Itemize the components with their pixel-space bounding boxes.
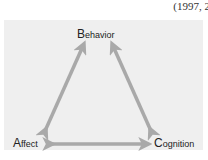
arrow-cognition-behavior bbox=[113, 46, 151, 131]
arrow-affect-behavior bbox=[45, 46, 83, 131]
node-affect-initial: A bbox=[13, 136, 21, 150]
node-affect: Affect bbox=[13, 136, 38, 150]
node-cognition-initial: C bbox=[154, 136, 163, 150]
node-cognition-rest: ognition bbox=[163, 139, 195, 149]
node-behavior-initial: B bbox=[77, 27, 85, 41]
node-behavior: Behavior bbox=[77, 27, 115, 41]
node-affect-rest: ffect bbox=[21, 139, 38, 149]
node-cognition: Cognition bbox=[154, 136, 194, 150]
node-behavior-rest: ehavior bbox=[85, 30, 115, 40]
